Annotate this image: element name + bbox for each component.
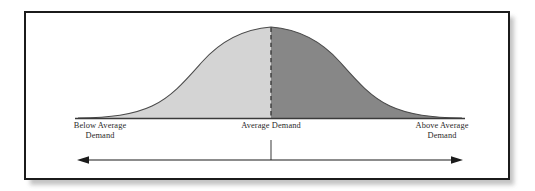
label-above-average-demand: Above Average Demand (388, 121, 496, 141)
label-below-average-demand-line1: Below Average (46, 121, 154, 131)
label-above-average-demand-line1: Above Average (388, 121, 496, 131)
below-average-region (78, 27, 271, 118)
label-average-demand-line1: Average Demand (217, 121, 325, 131)
label-below-average-demand: Below Average Demand (46, 121, 154, 141)
figure-container: Below Average Demand Average Demand Abov… (0, 0, 535, 191)
label-above-average-demand-line2: Demand (388, 131, 496, 141)
plot-area: Below Average Demand Average Demand Abov… (0, 0, 535, 191)
label-below-average-demand-line2: Demand (46, 131, 154, 141)
above-average-region (271, 27, 462, 118)
distribution-curve-svg (0, 0, 535, 191)
arrow-head-right-icon (451, 156, 463, 164)
arrow-head-left-icon (77, 156, 89, 164)
label-average-demand: Average Demand (217, 121, 325, 131)
